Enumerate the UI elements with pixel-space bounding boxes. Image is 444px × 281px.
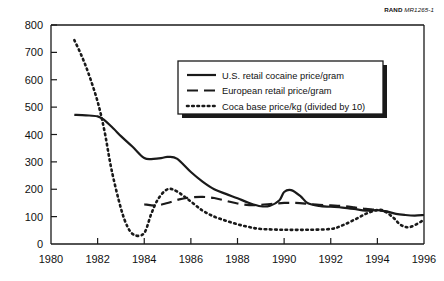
y-tick-label: 800	[25, 19, 43, 31]
y-tick-label: 600	[25, 74, 43, 86]
x-tick-label: 1988	[225, 253, 249, 265]
x-tick-label: 1986	[179, 253, 203, 265]
x-tick-label: 1982	[85, 253, 109, 265]
y-axis-ticks: 0100200300400500600700800	[25, 19, 57, 250]
legend-label-2: European retail price/gram	[222, 86, 332, 96]
x-tick-label: 1994	[365, 253, 389, 265]
y-tick-label: 700	[25, 46, 43, 58]
x-tick-label: 1990	[272, 253, 296, 265]
chart-legend: U.S. retail cocaine price/gramEuropean r…	[178, 61, 387, 118]
y-tick-label: 500	[25, 101, 43, 113]
y-tick-label: 300	[25, 156, 43, 168]
series-line-1	[74, 115, 424, 216]
line-chart: 0100200300400500600700800 19801982198419…	[0, 0, 444, 281]
source-note-number: MR1265-1	[404, 6, 434, 13]
source-note-rand: RAND	[384, 6, 402, 13]
series-line-2	[144, 197, 389, 212]
legend-label-1: U.S. retail cocaine price/gram	[222, 71, 344, 81]
legend-label-3: Coca base price/kg (divided by 10)	[222, 102, 365, 112]
x-axis-ticks: 198019821984198619881990199219941996	[39, 238, 436, 265]
x-tick-label: 1984	[132, 253, 156, 265]
x-tick-label: 1980	[39, 253, 63, 265]
y-tick-label: 200	[25, 183, 43, 195]
y-tick-label: 100	[25, 211, 43, 223]
x-tick-label: 1992	[319, 253, 343, 265]
y-tick-label: 400	[25, 129, 43, 141]
figure-container: RAND MR1265-1 0100200300400500600700800 …	[0, 0, 444, 281]
x-tick-label: 1996	[412, 253, 436, 265]
source-note: RAND MR1265-1	[384, 7, 434, 13]
y-tick-label: 0	[37, 238, 43, 250]
